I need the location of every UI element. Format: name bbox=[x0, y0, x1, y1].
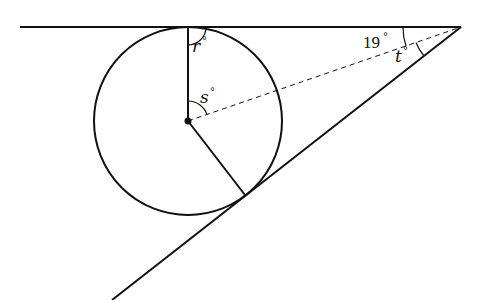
label-t-degree: ° bbox=[403, 45, 408, 56]
label-t: t bbox=[395, 46, 402, 66]
label-s-degree: ° bbox=[210, 86, 215, 97]
bottom-tangent-line bbox=[112, 27, 461, 300]
label-s: s bbox=[200, 87, 209, 107]
center-point bbox=[185, 118, 192, 125]
dashed-bisector bbox=[188, 27, 461, 121]
label-r: r bbox=[192, 36, 201, 56]
label-19: 19 bbox=[363, 33, 380, 52]
radius-bottom bbox=[188, 121, 245, 195]
angle-arc-t bbox=[416, 43, 424, 57]
label-r-degree: ° bbox=[202, 35, 207, 46]
angle-arc-19 bbox=[403, 27, 406, 46]
label-19-degree: ° bbox=[383, 31, 388, 42]
geometry-diagram: r ° s ° 19 ° t ° bbox=[0, 0, 482, 300]
